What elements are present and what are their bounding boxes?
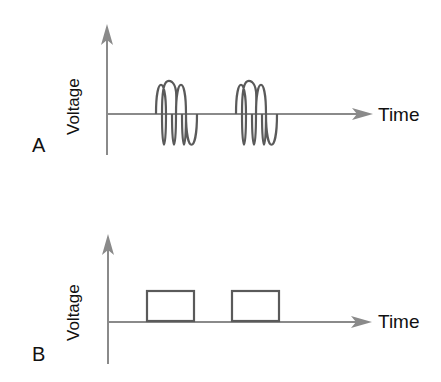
panel-a-letter: A	[32, 134, 45, 157]
panel-b	[102, 234, 372, 364]
panel-a-burst-1	[156, 81, 197, 145]
panel-a-x-label: Time	[378, 104, 420, 126]
panel-b-pulse-2	[232, 291, 279, 321]
panel-b-letter: B	[32, 343, 45, 366]
panel-a	[101, 24, 373, 155]
panel-a-burst-2	[236, 81, 277, 145]
panel-b-y-label: Voltage	[64, 284, 84, 341]
panel-b-x-label: Time	[378, 311, 420, 333]
panel-a-y-label: Voltage	[64, 78, 84, 135]
panel-b-pulse-1	[147, 291, 194, 321]
